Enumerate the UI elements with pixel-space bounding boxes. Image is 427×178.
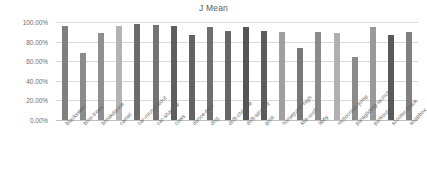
bar-slot — [128, 22, 146, 120]
chart-container: J Mean 100.00%80.00%60.00%40.00%20.00%0.… — [0, 0, 427, 178]
y-axis-tick-label: 80.00% — [26, 38, 48, 45]
chart-title: J Mean — [0, 3, 427, 13]
bar-slot — [219, 22, 237, 120]
bar-slot — [273, 22, 291, 120]
y-axis-tick-label: 60.00% — [26, 58, 48, 65]
bar-slot — [328, 22, 346, 120]
bar-slot — [56, 22, 74, 120]
bar[interactable] — [279, 32, 285, 120]
bar-slot — [309, 22, 327, 120]
y-axis-tick-label: 0.00% — [30, 117, 48, 124]
y-axis-tick-labels: 100.00%80.00%60.00%40.00%20.00%0.00% — [0, 22, 52, 120]
bar-slot — [382, 22, 400, 120]
y-axis-tick-label: 40.00% — [26, 77, 48, 84]
y-axis-tick-label: 100.00% — [23, 19, 48, 26]
bar[interactable] — [334, 33, 340, 120]
y-axis-tick-label: 20.00% — [26, 97, 48, 104]
bar[interactable] — [315, 32, 321, 120]
bar[interactable] — [189, 35, 195, 120]
bar[interactable] — [225, 31, 231, 120]
bar[interactable] — [134, 24, 140, 120]
x-axis-tick-labels: blackswanbmx-treesbreakdancecamelcar-rou… — [56, 121, 418, 178]
bar-slot — [183, 22, 201, 120]
bar[interactable] — [388, 35, 394, 120]
bar[interactable] — [62, 26, 68, 120]
bar-series — [56, 22, 418, 120]
